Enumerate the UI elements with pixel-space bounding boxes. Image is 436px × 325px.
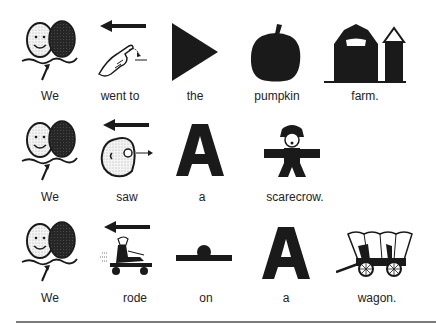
on-surface-icon[interactable] [176,244,232,268]
saw-face-eye-icon[interactable] [100,119,156,179]
letter-a-icon[interactable] [262,227,310,279]
we-eggs-icon[interactable] [20,20,80,82]
rode-cart-icon[interactable] [100,221,158,277]
we-eggs-icon[interactable] [20,120,80,182]
word-label-a: a [236,291,336,305]
bottom-divider [16,321,436,323]
we-eggs-icon[interactable] [20,221,80,283]
covered-wagon-icon[interactable] [336,230,420,278]
went-to-hand-icon[interactable] [97,20,149,80]
letter-a-icon[interactable] [176,124,224,176]
word-label-pumpkin: pumpkin [227,89,327,103]
scarecrow-icon[interactable] [264,119,320,179]
pumpkin-icon[interactable] [248,22,304,84]
word-label-scarecrow: scarecrow. [245,190,345,204]
word-label-farm: farm. [315,89,415,103]
the-triangle-icon[interactable] [172,23,218,81]
farm-barn-silo-icon[interactable] [324,22,406,84]
word-label-a: a [152,190,252,204]
word-label-wagon: wagon. [327,291,427,305]
